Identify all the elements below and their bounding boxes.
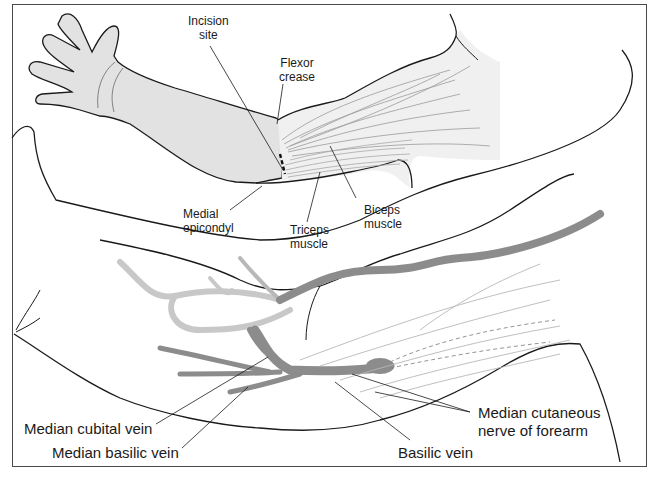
- nerve-lines: [300, 264, 570, 398]
- infant-arm-drawing: [12, 14, 632, 240]
- label-medial-epicondyl: Medial epicondyl: [183, 207, 234, 235]
- hand-forearm-shape: [29, 14, 282, 183]
- label-median-cubital-vein: Median cubital vein: [24, 420, 152, 438]
- label-biceps-muscle: Biceps muscle: [364, 203, 402, 231]
- light-veins: [120, 258, 290, 330]
- basilic-vein-end: [366, 358, 394, 374]
- label-median-cutaneous-nerve: Median cutaneous nerve of forearm: [478, 404, 601, 440]
- label-flexor-crease: Flexor crease: [279, 56, 315, 84]
- label-incision-site: Incision site: [188, 14, 229, 42]
- label-median-basilic-vein: Median basilic vein: [52, 444, 179, 462]
- label-triceps-muscle: Triceps muscle: [290, 223, 329, 251]
- label-basilic-vein: Basilic vein: [398, 444, 473, 462]
